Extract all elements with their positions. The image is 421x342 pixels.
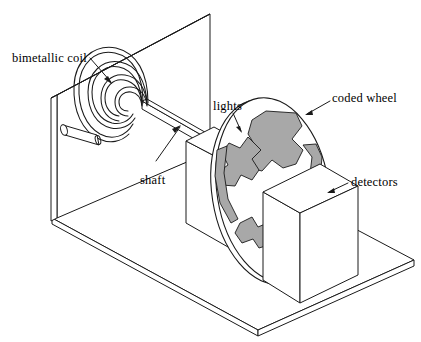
label-lights: lights: [213, 99, 242, 113]
arrowhead-coded-wheel: [305, 110, 313, 115]
coded-wheel-segment-1: [246, 111, 303, 171]
label-shaft: shaft: [140, 173, 166, 187]
back-panel-edge-left: [51, 95, 57, 221]
label-coded-wheel: coded wheel: [332, 91, 397, 105]
label-detectors: detectors: [351, 175, 398, 189]
label-bimetallic-coil: bimetallic coil: [12, 51, 87, 65]
encoder-diagram: bimetallic coil shaft lights coded wheel…: [0, 0, 421, 342]
diagram-canvas: bimetallic coil shaft lights coded wheel…: [0, 0, 421, 342]
